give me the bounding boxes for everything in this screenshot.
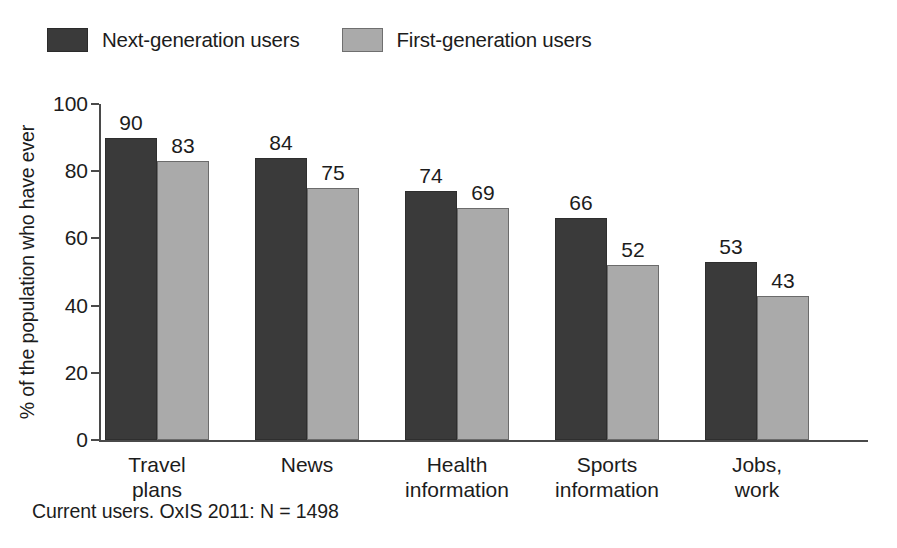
category-label-line: plans [128, 477, 186, 502]
x-axis-category-label: Jobs,work [732, 452, 782, 502]
bar-value-label: 83 [171, 134, 194, 158]
category-label-line: Sports [555, 452, 659, 477]
category-label-line: Jobs, [732, 452, 782, 477]
bar-group: 9083 [105, 104, 209, 440]
y-tick-mark [91, 372, 99, 374]
category-label-line: Health [405, 452, 509, 477]
bar-value-label: 43 [771, 269, 794, 293]
light-swatch-icon [342, 28, 383, 52]
y-tick-mark [91, 103, 99, 105]
chart-legend: Next-generation users First-generation u… [47, 24, 634, 56]
bar-value-label: 69 [471, 181, 494, 205]
y-tick-mark [91, 237, 99, 239]
plot-area: % of the population who have ever 020406… [99, 104, 868, 440]
x-axis-category-label: Travelplans [128, 452, 186, 502]
legend-label-first-generation-users: First-generation users [397, 28, 592, 52]
y-tick-mark [91, 305, 99, 307]
bar: 53 [705, 262, 757, 440]
y-tick-label: 80 [65, 159, 88, 183]
bar: 52 [607, 265, 659, 440]
bar-value-label: 84 [269, 131, 292, 155]
x-axis-category-label: Healthinformation [405, 452, 509, 502]
bar: 74 [405, 191, 457, 440]
bar-value-label: 52 [621, 238, 644, 262]
y-axis-line [99, 104, 101, 440]
bar: 84 [255, 158, 307, 440]
bar-chart-figure: Next-generation users First-generation u… [0, 0, 897, 548]
x-axis-category-label: Sportsinformation [555, 452, 659, 502]
x-axis-line [99, 440, 868, 442]
x-axis-category-label: News [281, 452, 334, 477]
bar: 75 [307, 188, 359, 440]
category-label-line: News [281, 452, 334, 477]
legend-label-next-generation-users: Next-generation users [102, 28, 300, 52]
y-tick-label: 20 [65, 361, 88, 385]
bar: 43 [757, 296, 809, 440]
category-label-line: information [405, 477, 509, 502]
bar-value-label: 90 [119, 111, 142, 135]
bar-value-label: 74 [419, 164, 442, 188]
bar-group: 7469 [405, 104, 509, 440]
bar-group: 5343 [705, 104, 809, 440]
y-tick-label: 40 [65, 294, 88, 318]
category-label-line: Travel [128, 452, 186, 477]
bar: 69 [457, 208, 509, 440]
bar-value-label: 53 [719, 235, 742, 259]
legend-item-first-generation-users: First-generation users [342, 28, 592, 52]
bar-value-label: 75 [321, 161, 344, 185]
bar-group: 8475 [255, 104, 359, 440]
bar-group: 6652 [555, 104, 659, 440]
bar: 83 [157, 161, 209, 440]
bar: 66 [555, 218, 607, 440]
bar: 90 [105, 138, 157, 440]
chart-footnote: Current users. OxIS 2011: N = 1498 [32, 500, 339, 523]
legend-item-next-generation-users: Next-generation users [47, 28, 300, 52]
category-label-line: information [555, 477, 659, 502]
y-tick-mark [91, 439, 99, 441]
y-tick-label: 0 [76, 428, 88, 452]
y-axis-title: % of the population who have ever [16, 125, 39, 419]
y-tick-label: 60 [65, 226, 88, 250]
y-tick-label: 100 [53, 92, 88, 116]
category-label-line: work [732, 477, 782, 502]
y-tick-mark [91, 170, 99, 172]
dark-swatch-icon [47, 28, 88, 52]
bar-value-label: 66 [569, 191, 592, 215]
